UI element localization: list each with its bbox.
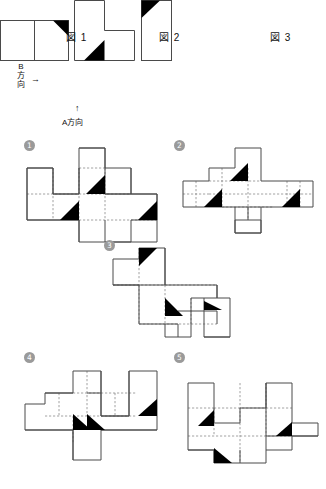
a-direction-label: A方向: [62, 116, 83, 127]
b-direction-arrow-icon: →: [31, 75, 40, 84]
option-2-net[interactable]: [176, 148, 321, 243]
b-direction-char-2: 向: [16, 80, 26, 89]
figure-3-label: 図 3: [270, 29, 291, 44]
option-2-markers: [204, 163, 300, 207]
b-direction-label: B 方 向: [16, 62, 26, 89]
option-4-net[interactable]: [25, 368, 165, 473]
option-3-net[interactable]: [108, 248, 248, 348]
option-3-markers: [139, 248, 222, 316]
figure-2-label: 図 2: [159, 29, 180, 44]
puzzle-page: 図 1 図 2 図 3 B 方 向 → ↑ A方向 1: [0, 0, 326, 489]
option-4-outline: [25, 371, 157, 460]
option-4-fold-lines: [45, 371, 137, 443]
option-2-outline: [183, 148, 313, 233]
b-direction-char-1: 方: [16, 71, 26, 80]
option-5-badge[interactable]: 5: [174, 352, 185, 363]
figure-1-label: 図 1: [66, 29, 87, 44]
option-1-outline-detail: [27, 148, 157, 242]
a-direction-arrow-icon: ↑: [75, 104, 80, 113]
figure-1-shape: [0, 20, 70, 62]
option-1-markers: [60, 175, 157, 220]
b-direction-char-0: B: [16, 62, 26, 71]
option-5-net[interactable]: [180, 368, 325, 473]
option-1-net[interactable]: [20, 148, 160, 243]
option-4-badge[interactable]: 4: [24, 352, 35, 363]
